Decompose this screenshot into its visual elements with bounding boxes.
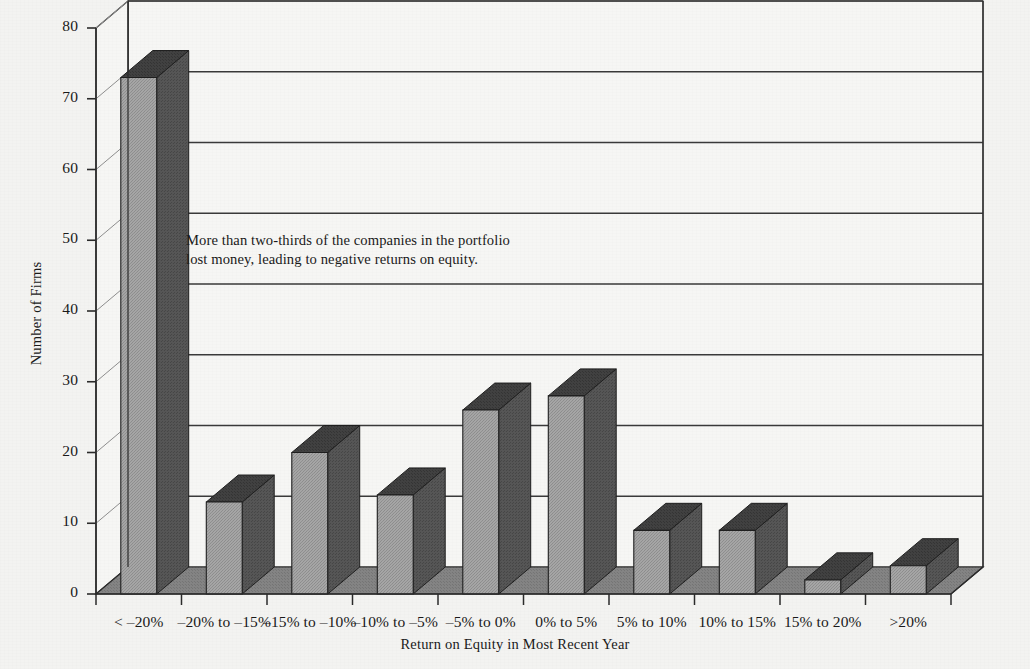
y-tick-label: 60 [38,159,78,177]
bar-side-face [328,426,360,595]
chart-annotation: More than two-thirds of the companies in… [186,231,516,269]
bar-front-face [890,566,926,594]
y-tick-label: 0 [38,583,78,601]
plot-area: Number of Firms Return on Equity in Most… [0,0,1030,669]
bar-column [377,468,445,594]
bar-front-face [634,530,670,594]
bar-column [121,51,189,594]
y-tick-label: 20 [38,442,78,460]
chart-figure: Number of Firms Return on Equity in Most… [0,0,1030,669]
y-tick-label: 10 [38,512,78,530]
bar-side-face [157,51,189,594]
bar-front-face [805,580,841,594]
bar-front-face [719,530,755,594]
bar-front-face [548,396,584,594]
y-tick-label: 30 [38,371,78,389]
bar-column [292,426,360,595]
bar-side-face [584,369,616,594]
bar-column [463,383,531,594]
y-tick-label: 70 [38,88,78,106]
bar-front-face [206,502,242,594]
y-tick-label: 80 [38,17,78,35]
x-axis-title: Return on Equity in Most Recent Year [0,636,1030,653]
y-tick-label: 50 [38,229,78,247]
bar-column [548,369,616,594]
x-tick-label: >20% [846,613,972,631]
bar-front-face [292,453,328,595]
y-tick-label: 40 [38,300,78,318]
bar-front-face [121,78,157,594]
bar-front-face [377,495,413,594]
bar-side-face [499,383,531,594]
bar-column [206,475,274,594]
chart-scene [0,0,1030,669]
bar-front-face [463,410,499,594]
